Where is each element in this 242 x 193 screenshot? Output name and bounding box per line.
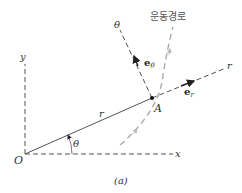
angle-label: θ xyxy=(73,138,79,149)
angle-arc xyxy=(68,135,72,154)
radius-line xyxy=(25,98,152,154)
path-arrow-upper xyxy=(169,49,170,55)
figure-caption: (a) xyxy=(114,175,128,186)
r-axis-label: r xyxy=(227,60,233,71)
polar-coordinates-diagram: O x y r θ r θ A 운동경로 er eθ (a) xyxy=(0,0,242,193)
origin-label: O xyxy=(14,154,23,167)
motion-path xyxy=(120,27,173,145)
x-axis-label: x xyxy=(175,148,181,159)
point-a-label: A xyxy=(153,102,162,115)
y-axis-label: y xyxy=(19,51,26,62)
unit-vector-r-label: er xyxy=(184,86,194,99)
motion-path-label: 운동경로 xyxy=(150,10,186,22)
unit-vector-theta-label: eθ xyxy=(144,57,155,70)
theta-axis-label: θ xyxy=(114,19,120,30)
radius-label: r xyxy=(99,108,105,119)
point-a xyxy=(150,96,154,100)
